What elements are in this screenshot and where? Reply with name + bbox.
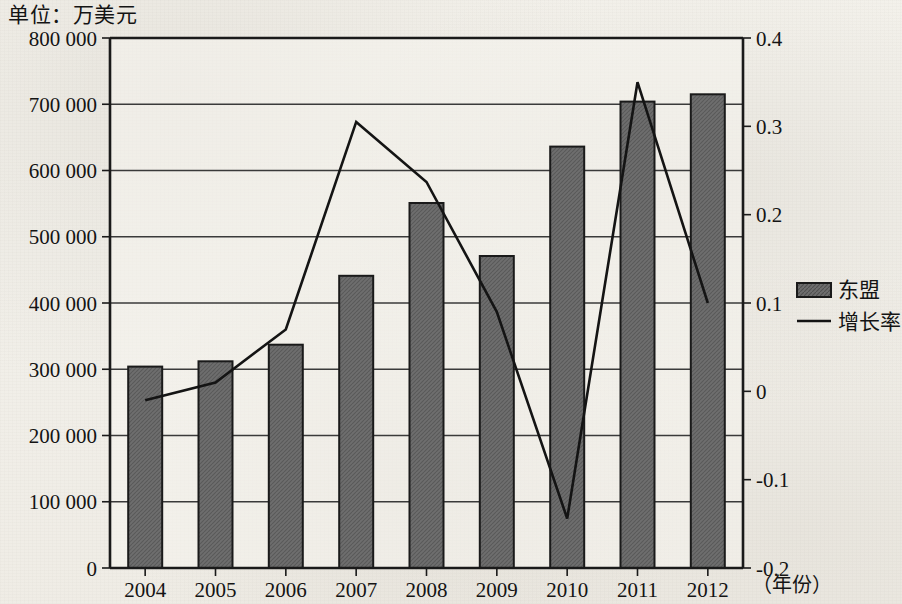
bar-2012 [691, 94, 725, 568]
bar-2009 [480, 256, 514, 568]
y-tick-label-right: 0 [756, 380, 767, 404]
combo-chart: 0100 000200 000300 000400 000500 000600 … [0, 0, 902, 604]
y-tick-label-right: 0.3 [756, 115, 782, 139]
bar-2006 [269, 345, 303, 568]
x-tick-label-2008: 2008 [406, 578, 448, 602]
bar-2008 [410, 203, 444, 568]
x-tick-label-2009: 2009 [476, 578, 518, 602]
y-tick-label-right: -0.1 [756, 468, 789, 492]
x-axis-name: （年份） [752, 574, 832, 596]
x-tick-label-2007: 2007 [335, 578, 377, 602]
x-axis-labels: 200420052006200720082009201020112012 [124, 578, 729, 602]
y-tick-label-left: 200 000 [29, 424, 97, 448]
bar-2007 [339, 276, 373, 568]
y-tick-label-left: 800 000 [29, 27, 97, 51]
y-tick-label-left: 400 000 [29, 292, 97, 316]
legend-label-line: 增长率 [838, 310, 901, 334]
y-tick-label-left: 0 [87, 557, 98, 581]
bar-2005 [199, 361, 233, 568]
y-axis-left-labels: 0100 000200 000300 000400 000500 000600 … [29, 27, 97, 581]
y-tick-label-left: 600 000 [29, 159, 97, 183]
y-tick-label-left: 300 000 [29, 358, 97, 382]
y-axis-right-labels: -0.2-0.100.10.20.30.4 [756, 27, 789, 581]
x-tick-label-2006: 2006 [265, 578, 307, 602]
legend-label-bar: 东盟 [838, 278, 880, 302]
bar-2011 [621, 102, 655, 568]
y-tick-label-right: 0.2 [756, 203, 782, 227]
x-tick-label-2011: 2011 [617, 578, 658, 602]
y-tick-label-left: 700 000 [29, 93, 97, 117]
y-tick-label-left: 500 000 [29, 225, 97, 249]
x-tick-label-2012: 2012 [687, 578, 729, 602]
x-tick-label-2010: 2010 [546, 578, 588, 602]
chart-page: 单位：万美元 [0, 0, 902, 604]
y-tick-label-right: 0.1 [756, 292, 782, 316]
legend-swatch-bar [797, 283, 831, 297]
y-tick-label-left: 100 000 [29, 490, 97, 514]
bar-2010 [550, 147, 584, 568]
legend: 东盟 增长率 [797, 278, 901, 334]
x-tick-label-2004: 2004 [124, 578, 167, 602]
x-tick-label-2005: 2005 [195, 578, 237, 602]
y-tick-label-right: 0.4 [756, 27, 783, 51]
